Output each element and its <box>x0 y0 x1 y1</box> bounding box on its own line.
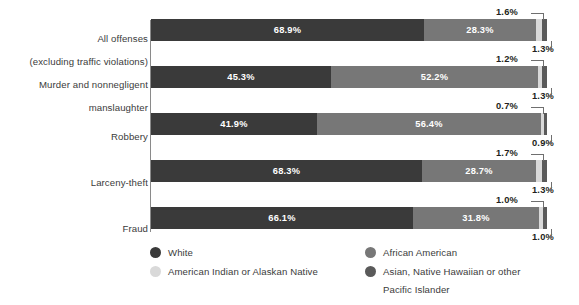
bar-row: 41.9% 56.4% <box>151 113 547 135</box>
callout-american-indian: 1.7% <box>496 148 518 158</box>
legend-item-african-american[interactable]: African American <box>365 247 575 259</box>
bar-segment-value: 31.8% <box>462 213 489 223</box>
category-label-fraud: Fraud <box>122 211 148 234</box>
bar-segment-asian-pacific <box>542 66 547 88</box>
leader-line-american-indian <box>531 60 544 67</box>
bar-row: 68.9% 28.3% <box>151 19 547 41</box>
category-label-line2: manslaughter <box>89 102 148 113</box>
stacked-bar-chart: All offenses (excluding traffic violatio… <box>0 0 579 305</box>
leader-line-asian-pacific <box>546 88 552 97</box>
leader-line-asian-pacific <box>546 182 552 191</box>
legend-swatch-icon <box>365 266 376 277</box>
bar-segment-value: 68.9% <box>274 25 301 35</box>
bar-row: 66.1% 31.8% <box>151 207 547 229</box>
legend-swatch-icon <box>365 247 376 258</box>
bar-segment-white: 41.9% <box>151 113 317 135</box>
bar-segment-african-american: 28.3% <box>424 19 536 41</box>
bar-segment-value: 41.9% <box>220 119 247 129</box>
leader-line-asian-pacific <box>546 41 552 50</box>
bar-segment-asian-pacific <box>542 19 547 41</box>
bar-segment-african-american: 28.7% <box>422 160 536 182</box>
callout-american-indian: 0.7% <box>496 101 518 111</box>
legend-label-continuation: Pacific Islander <box>383 283 575 297</box>
bar-segment-african-american: 56.4% <box>317 113 541 135</box>
legend-column-right: African American Asian, Native Hawaiian … <box>365 247 575 297</box>
bar-segment-value: 66.1% <box>268 213 295 223</box>
bar-segment-value: 28.3% <box>466 25 493 35</box>
category-label-line1: Robbery <box>111 131 148 142</box>
bar-row: 68.3% 28.7% <box>151 160 547 182</box>
callout-american-indian: 1.2% <box>496 54 518 64</box>
legend-label: American Indian or Alaskan Native <box>168 266 318 278</box>
bar-segment-white: 68.3% <box>151 160 422 182</box>
leader-line-american-indian <box>531 107 544 114</box>
bar-segment-white: 68.9% <box>151 19 424 41</box>
legend-swatch-icon <box>150 247 161 258</box>
bar-segment-value: 56.4% <box>415 119 442 129</box>
legend-item-asian-pacific[interactable]: Asian, Native Hawaiian or other <box>365 266 575 278</box>
bar-segment-african-american: 31.8% <box>413 207 539 229</box>
bar-segment-asian-pacific <box>543 207 547 229</box>
legend-swatch-icon <box>150 266 161 277</box>
legend-label: African American <box>383 247 457 259</box>
category-label-murder: Murder and nonnegligent manslaughter <box>39 67 148 113</box>
bar-segment-white: 45.3% <box>151 66 331 88</box>
leader-line-american-indian <box>531 154 544 161</box>
bar-segment-white: 66.1% <box>151 207 413 229</box>
category-label-line2: (excluding traffic violations) <box>29 56 148 67</box>
legend-item-white[interactable]: White <box>150 247 365 259</box>
category-label-line1: Larceny-theft <box>91 177 148 188</box>
category-label-robbery: Robbery <box>111 119 148 142</box>
legend-item-american-indian[interactable]: American Indian or Alaskan Native <box>150 266 365 278</box>
leader-line-american-indian <box>531 13 544 20</box>
bar-segment-value: 68.3% <box>273 166 300 176</box>
callout-american-indian: 1.6% <box>496 7 518 17</box>
bar-row: 45.3% 52.2% <box>151 66 547 88</box>
leader-line-asian-pacific <box>546 229 552 238</box>
legend-label: White <box>168 247 193 259</box>
bar-segment-asian-pacific <box>542 160 547 182</box>
bar-segment-african-american: 52.2% <box>331 66 538 88</box>
legend-column-left: White American Indian or Alaskan Native <box>150 247 365 285</box>
category-label-line1: Fraud <box>122 223 148 234</box>
bar-segment-value: 45.3% <box>227 72 254 82</box>
category-label-larceny-theft: Larceny-theft <box>91 165 148 188</box>
leader-line-asian-pacific <box>546 135 552 144</box>
bar-segment-value: 28.7% <box>465 166 492 176</box>
category-label-line1: Murder and nonnegligent <box>39 79 148 90</box>
callout-american-indian: 1.0% <box>496 195 518 205</box>
bar-segment-asian-pacific <box>544 113 547 135</box>
bar-segment-value: 52.2% <box>421 72 448 82</box>
category-label-all-offenses: All offenses (excluding traffic violatio… <box>29 21 148 67</box>
legend-label: Asian, Native Hawaiian or other <box>383 266 520 278</box>
leader-line-american-indian <box>531 201 544 208</box>
category-label-line1: All offenses <box>97 33 148 44</box>
